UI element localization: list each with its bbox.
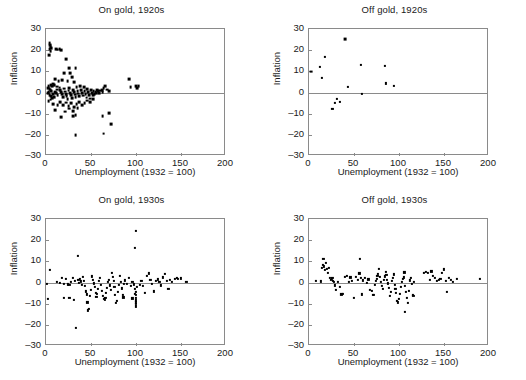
data-point [158,281,160,283]
x-tick-mark [181,343,182,346]
data-point [101,115,104,118]
data-point [374,284,376,286]
data-point [336,98,338,100]
data-point [90,289,92,291]
data-point [89,295,91,297]
data-point [393,284,395,286]
data-point [342,293,344,295]
data-point [121,287,123,289]
data-point [58,282,60,284]
x-tick-label: 0 [42,348,47,358]
data-point [412,295,414,297]
data-point [56,103,59,106]
data-point [78,100,81,103]
x-tick-mark [136,343,137,346]
data-point [72,277,74,279]
data-point [49,50,52,53]
data-point [362,279,364,281]
data-point [107,281,109,283]
y-tick-label: 0 [13,277,41,287]
data-point [102,132,105,135]
data-point [135,305,137,307]
data-point [384,271,386,273]
data-point [439,278,441,280]
data-point [97,288,99,290]
plot-area [45,218,225,345]
y-tick-label: –30 [276,340,304,350]
data-point [427,272,429,274]
zero-reference-line [309,93,487,94]
x-tick-label: 200 [480,158,496,168]
data-point [394,288,396,290]
data-point [95,296,97,298]
data-point [134,247,136,249]
data-point [331,108,333,110]
data-point [385,274,387,276]
x-tick-label: 150 [172,158,188,168]
data-point [411,283,413,285]
data-point [73,299,75,301]
data-point [112,275,114,277]
y-tick-mark [46,325,49,326]
data-point [119,274,121,276]
x-tick-label: 0 [42,158,47,168]
data-point [334,284,336,286]
data-point [106,287,108,289]
data-point [398,298,400,300]
data-point [62,95,65,98]
data-point [392,277,394,279]
data-point [384,82,386,84]
data-point [96,293,98,295]
y-tick-label: –10 [276,108,304,118]
y-tick-label: –20 [276,319,304,329]
data-point [339,286,341,288]
data-point [83,280,85,282]
data-point [389,295,391,297]
data-point [325,262,327,264]
data-point [393,273,395,275]
data-point [167,288,169,290]
data-point [324,56,326,58]
y-tick-mark [46,240,49,241]
data-point [407,302,409,304]
data-point [124,279,126,281]
data-point [108,89,111,92]
x-tick-label: 200 [480,348,496,358]
data-point [333,281,335,283]
data-point [135,230,137,232]
x-tick-label: 200 [217,348,233,358]
data-point [334,102,336,104]
data-point [404,311,406,313]
data-point [71,97,74,100]
data-point [441,272,443,274]
data-point [399,292,401,294]
data-point [46,283,48,285]
data-point [94,286,96,288]
data-point [129,86,132,89]
data-point [367,278,369,280]
data-point [140,280,142,282]
data-point [134,292,136,294]
data-point [153,290,155,292]
data-point [60,49,63,52]
data-point [328,267,330,269]
data-point [386,279,388,281]
data-point [446,291,448,293]
data-point [74,114,77,117]
x-tick-label: 50 [348,158,359,168]
y-tick-mark [46,114,49,115]
data-point [166,280,168,282]
data-point [72,105,75,108]
data-point [82,276,84,278]
data-point [108,112,111,115]
y-tick-mark [46,71,49,72]
data-point [359,258,361,260]
y-tick-label: 10 [276,66,304,76]
y-tick-mark [46,304,49,305]
x-tick-mark [136,153,137,156]
panel-title: On gold, 1930s [0,194,263,205]
data-point [430,270,432,272]
y-tick-label: –20 [276,129,304,139]
zero-reference-line [309,283,487,284]
data-point [68,107,71,110]
